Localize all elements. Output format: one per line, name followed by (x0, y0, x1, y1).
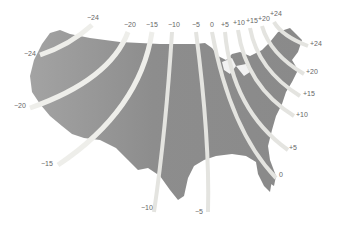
label-plus-5-top: +5 (221, 21, 229, 29)
label-minus-5-top: −5 (192, 21, 200, 29)
label-minus-15-side: −15 (41, 160, 53, 168)
label-plus-15-top: +15 (246, 17, 258, 25)
label-plus-15-side: +15 (303, 90, 315, 98)
label-zero-side: 0 (279, 171, 283, 179)
label-plus-24-top: +24 (270, 10, 282, 18)
label-minus-15-top: −15 (146, 21, 158, 29)
label-minus-10-top: −10 (168, 21, 180, 29)
label-minus-24-side: −24 (24, 50, 36, 58)
us-declination-map (0, 0, 338, 227)
label-minus-20-side: −20 (14, 102, 26, 110)
label-plus-5-side: +5 (289, 144, 297, 152)
label-plus-24-side: +24 (310, 40, 322, 48)
label-minus-5-side: −5 (195, 208, 203, 216)
label-plus-20-top: +20 (258, 15, 270, 23)
label-minus-10-side: −10 (141, 204, 153, 212)
label-plus-20-side: +20 (306, 68, 318, 76)
label-plus-10-top: +10 (233, 19, 245, 27)
label-minus-24-top: −24 (87, 14, 99, 22)
label-zero-top: 0 (210, 21, 214, 29)
label-plus-10-side: +10 (296, 111, 308, 119)
label-minus-20-top: −20 (124, 21, 136, 29)
